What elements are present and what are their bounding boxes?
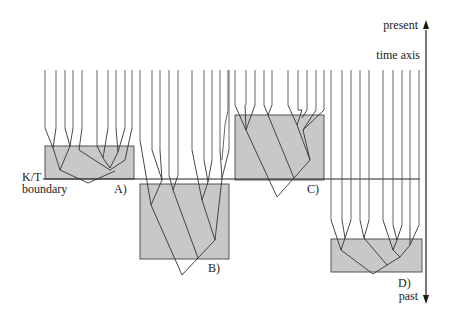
panel-d-label: D) xyxy=(398,276,411,290)
time-axis xyxy=(423,20,429,304)
axis-past-label: past xyxy=(399,289,419,303)
panel-d-box xyxy=(331,239,422,272)
diagram-canvas: present time axis past K/T boundary A) B… xyxy=(0,0,450,318)
panel-b-label: B) xyxy=(208,261,220,275)
arrow-down-icon xyxy=(423,295,429,304)
panel-a-label: A) xyxy=(114,182,127,196)
arrow-up-icon xyxy=(423,20,429,29)
panel-c-label: C) xyxy=(307,182,319,196)
kt-boundary-label-line2: boundary xyxy=(22,182,67,196)
axis-title: time axis xyxy=(376,48,420,62)
axis-present-label: present xyxy=(383,18,418,32)
